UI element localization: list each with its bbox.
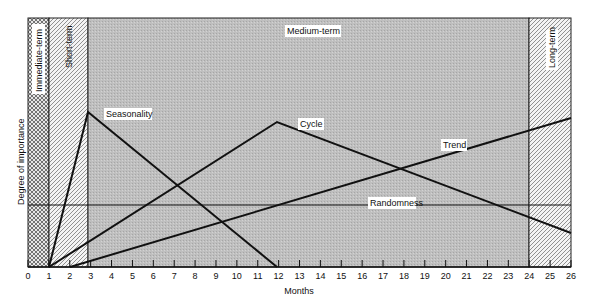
label-seasonality: Seasonality [106,109,153,119]
label-trend: Trend [443,140,466,150]
label-cycle: Cycle [300,119,323,129]
x-tick-label: 17 [378,271,388,281]
x-tick-label: 4 [109,271,114,281]
x-tick-label: 8 [193,271,198,281]
x-tick-label: 7 [172,271,177,281]
x-tick-label: 26 [566,271,576,281]
x-tick-label: 20 [441,271,451,281]
x-tick-label: 18 [399,271,409,281]
x-tick-label: 0 [25,271,30,281]
x-tick-label: 11 [253,271,262,281]
x-tick-label: 13 [294,271,304,281]
x-tick-label: 10 [232,271,242,281]
x-tick-label: 23 [503,271,513,281]
x-tick-label: 22 [482,271,492,281]
x-tick-label: 5 [130,271,135,281]
x-tick-label: 12 [274,271,284,281]
region-label-long: Long-term [547,27,557,68]
x-tick-label: 16 [357,271,367,281]
x-tick-label: 1 [46,271,51,281]
forecast-horizon-chart: Immediate-term Short-term Medium-term Lo… [0,0,590,305]
x-tick-label: 3 [88,271,93,281]
x-tick-label: 24 [524,271,534,281]
x-tick-label: 19 [420,271,430,281]
region-label-short: Short-term [64,25,74,68]
x-axis-label: Months [284,286,314,296]
region-label-immediate: Immediate-term [34,29,44,92]
x-tick-label: 2 [67,271,72,281]
x-tick-label: 25 [545,271,555,281]
y-axis-label: Degree of importance [16,118,26,205]
label-randomness: Randomness [370,198,424,208]
x-tick-label: 9 [213,271,218,281]
x-tick-label: 14 [315,271,325,281]
x-tick-label: 15 [336,271,346,281]
x-tick-label: 6 [151,271,156,281]
region-label-medium: Medium-term [287,26,340,36]
x-tick-label: 21 [462,271,472,281]
